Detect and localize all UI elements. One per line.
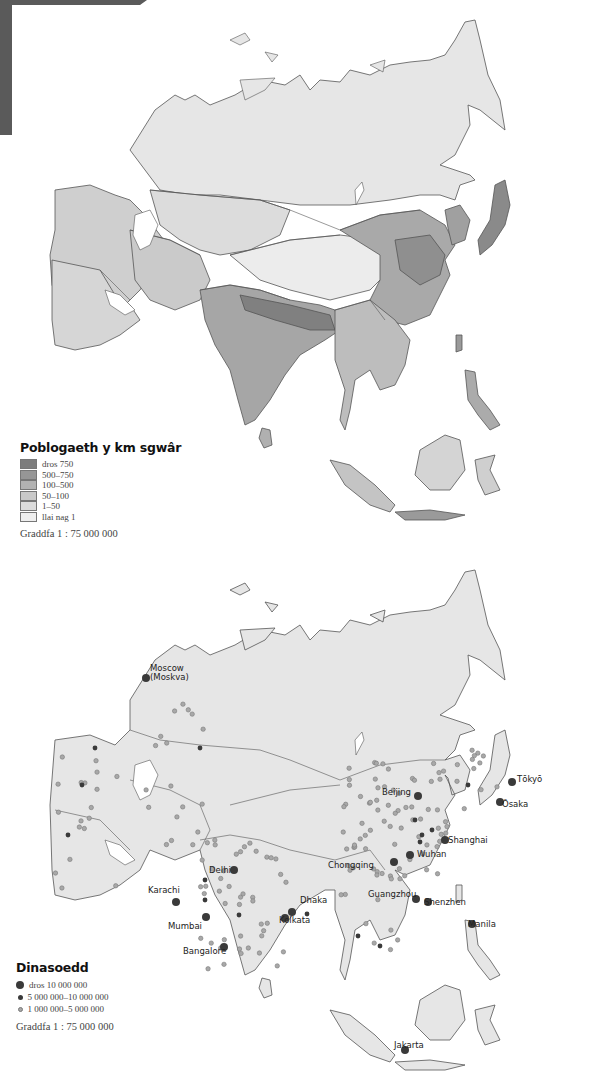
city-dot-small — [82, 826, 86, 830]
city-dot-small — [274, 857, 278, 861]
city-dot-small — [238, 934, 242, 938]
city-dot-small — [95, 787, 99, 791]
city-dot-small — [261, 929, 265, 933]
city-dot-small — [342, 804, 346, 808]
city-dot-small — [206, 967, 210, 971]
city-dot-small — [115, 774, 119, 778]
city-dot-small — [181, 805, 185, 809]
city-dot-small — [56, 782, 60, 786]
legend-label: 500–750 — [42, 470, 74, 480]
city-dot-small — [265, 921, 269, 925]
legend-label: 1 000 000–5 000 000 — [28, 1004, 105, 1014]
density-scale: Graddfa 1 : 75 000 000 — [20, 528, 181, 539]
region-philippines — [465, 370, 500, 430]
city-dot-medium — [203, 878, 208, 883]
density-legend-item: 100–500 — [20, 480, 181, 491]
city-dot-small — [438, 777, 442, 781]
legend-swatch — [20, 470, 37, 480]
city-dot-large — [390, 858, 398, 866]
city-dot-small — [358, 794, 362, 798]
land-sulawesi — [475, 1005, 500, 1045]
city-dot-small — [209, 941, 213, 945]
city-dot-large — [202, 913, 210, 921]
city-dot-large — [142, 674, 150, 682]
land-sumatra — [330, 1010, 395, 1062]
city-dot-large — [172, 898, 180, 906]
city-dot-small — [479, 787, 483, 791]
land-borneo — [415, 985, 465, 1040]
land-java — [395, 1060, 465, 1070]
legend-label: 50–100 — [42, 491, 69, 501]
city-label-tokyo: Tōkyō — [517, 775, 542, 784]
density-legend-item: dros 750 — [20, 459, 181, 470]
cities-legend-item: 5 000 000–10 000 000 — [16, 991, 114, 1003]
city-dot-small — [374, 798, 378, 802]
city-dot-small — [204, 884, 208, 888]
city-label-dhaka: Dhaka — [300, 896, 327, 905]
city-dot-small — [238, 850, 242, 854]
city-dot-small — [164, 842, 168, 846]
city-dot-medium — [93, 746, 98, 751]
city-dot-small — [79, 819, 83, 823]
cities-legend-item: 1 000 000–5 000 000 — [16, 1003, 114, 1015]
density-legend-item: 1–50 — [20, 501, 181, 512]
city-dot-small — [352, 843, 356, 847]
city-dot-small — [368, 800, 372, 804]
cities-legend-item: dros 10 000 000 — [16, 979, 114, 991]
city-label-jakarta: Jakarta — [394, 1041, 424, 1050]
legend-swatch — [20, 512, 37, 522]
city-dot-small — [472, 766, 476, 770]
legend-swatch — [20, 459, 37, 469]
city-dot-small — [222, 962, 226, 966]
city-dot-small — [373, 777, 377, 781]
city-dot-medium — [203, 898, 208, 903]
city-dot-small — [375, 873, 379, 877]
city-dot-small — [165, 741, 169, 745]
city-label-bangalore: Bangalore — [183, 947, 226, 956]
city-dot-small — [412, 778, 416, 782]
city-dot-small — [254, 849, 258, 853]
city-dot-small — [388, 824, 392, 828]
city-dot-small — [242, 845, 246, 849]
city-label-beijing: Beijing — [382, 788, 411, 797]
city-dot-small — [418, 817, 422, 821]
city-label-mumbai: Mumbai — [168, 922, 202, 931]
city-dot-medium — [66, 833, 71, 838]
region-taiwan — [456, 335, 462, 352]
city-dot-small — [181, 702, 185, 706]
city-dot-small — [94, 759, 98, 763]
city-dot-small — [60, 886, 64, 890]
city-dot-small — [395, 938, 399, 942]
city-dot-large — [406, 851, 414, 859]
city-dot-small — [363, 833, 367, 837]
city-dot-small — [241, 892, 245, 896]
city-dot-small — [260, 934, 264, 938]
city-dot-small — [237, 902, 241, 906]
region-sumatra — [330, 460, 395, 512]
city-dot-small — [196, 830, 200, 834]
city-dot-small — [344, 847, 348, 851]
city-dot-small — [114, 884, 118, 888]
city-dot-small — [426, 807, 430, 811]
city-dot-small — [146, 805, 150, 809]
legend-label: 100–500 — [42, 480, 74, 490]
city-dot-small — [389, 928, 393, 932]
city-dot-small — [455, 762, 459, 766]
density-legend-item: llai nag 1 — [20, 512, 181, 523]
region-sulawesi — [475, 455, 500, 495]
city-dot-small — [248, 841, 252, 845]
city-dot-small — [223, 901, 227, 905]
city-dot-small — [60, 755, 64, 759]
city-dot-small — [374, 761, 378, 765]
legend-swatch — [20, 501, 37, 511]
city-dot-small — [462, 806, 466, 810]
cities-legend-title: Dinasoedd — [16, 960, 114, 975]
city-dot-small — [89, 805, 93, 809]
city-dot-small — [437, 770, 441, 774]
city-dot-small — [257, 951, 261, 955]
city-dot-small — [443, 820, 447, 824]
city-dot-small — [217, 889, 221, 893]
region-sri-lanka — [259, 428, 272, 448]
city-dot-small — [201, 727, 205, 731]
city-dot-small — [472, 753, 476, 757]
